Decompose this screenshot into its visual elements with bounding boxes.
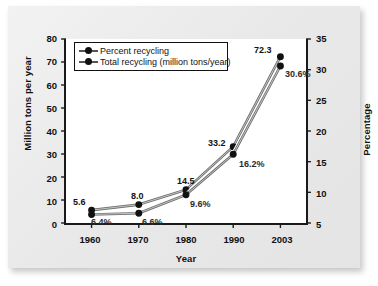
y-axis-left-tick-label: 70 [31, 56, 57, 67]
legend-marker-icon [79, 46, 98, 56]
x-axis-tick-label: 1980 [166, 234, 206, 245]
legend-item: Total recycling (million tons/year) [79, 56, 223, 67]
y-axis-right-tick-label: 30 [316, 64, 342, 75]
y-axis-left-tick-label: 0 [31, 219, 57, 230]
x-axis-tick-label: 1970 [118, 234, 158, 245]
x-axis-title: Year [64, 253, 308, 264]
data-point-label: 30.6% [285, 69, 311, 79]
data-point-label: 6.6% [142, 217, 163, 227]
y-axis-right-tick-label: 20 [316, 126, 342, 137]
y-axis-right-tick-label: 35 [316, 33, 342, 44]
data-point-label: 5.6 [73, 197, 86, 207]
data-point-label: 8.0 [131, 191, 144, 201]
chart-legend: Percent recycling Total recycling (milli… [74, 42, 228, 71]
y-axis-right-tick-label: 15 [316, 157, 342, 168]
data-point-label: 9.6% [190, 199, 211, 209]
x-axis-tick-label: 1990 [214, 234, 254, 245]
y-axis-left-tick-label: 40 [31, 126, 57, 137]
legend-item-label: Total recycling (million tons/year) [100, 57, 231, 67]
legend-item: Percent recycling [79, 45, 223, 56]
y-axis-right-tick-label: 10 [316, 188, 342, 199]
x-axis-tick-label: 2003 [262, 234, 302, 245]
legend-item-label: Percent recycling [100, 46, 169, 56]
x-axis-tick-label: 1960 [70, 234, 110, 245]
data-point-label: 6.4% [91, 217, 112, 227]
scanned-page-panel: Million tons per year Percentage Year Pe… [8, 6, 360, 268]
y-axis-right-title: Percentage [361, 85, 372, 175]
y-axis-left-tick-label: 30 [31, 149, 57, 160]
data-point-label: 72.3 [254, 45, 272, 55]
y-axis-left-tick-label: 80 [31, 33, 57, 44]
chart-figure: Million tons per year Percentage Year Pe… [0, 0, 378, 286]
data-point-label: 33.2 [208, 138, 226, 148]
y-axis-left-tick-label: 60 [31, 80, 57, 91]
y-axis-left-tick-label: 20 [31, 173, 57, 184]
data-point-label: 14.5 [177, 176, 195, 186]
legend-marker-icon [79, 57, 98, 67]
y-axis-left-tick-label: 50 [31, 103, 57, 114]
data-point-label: 16.2% [239, 159, 265, 169]
y-axis-left-tick-label: 10 [31, 196, 57, 207]
y-axis-right-tick-label: 25 [316, 95, 342, 106]
y-axis-right-tick-label: 5 [316, 219, 342, 230]
